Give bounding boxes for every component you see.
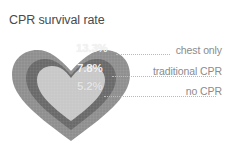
value-label-traditional-cpr: 7.8% (77, 62, 102, 74)
category-label-chest-only: chest only (176, 44, 222, 56)
category-label-traditional-cpr: traditional CPR (153, 65, 222, 77)
leader-line-chest-only (116, 54, 170, 55)
nested-hearts-graphic (0, 28, 150, 150)
value-label-chest-only: 13.3% (76, 42, 108, 54)
category-label-no-cpr: no CPR (186, 85, 222, 97)
chart-title: CPR survival rate (9, 13, 105, 27)
hearts-svg (0, 28, 150, 150)
value-label-no-cpr: 5.2% (77, 80, 102, 92)
chart-canvas: CPR survival rate (0, 0, 228, 154)
